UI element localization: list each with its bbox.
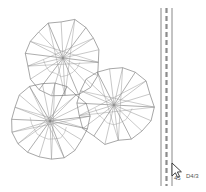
- canopy-top[interactable]: [25, 19, 99, 95]
- drawing-canvas[interactable]: 45D4/3: [0, 0, 206, 192]
- cad-drawing-surface[interactable]: 45D4/3: [0, 0, 206, 192]
- tooltip-left: 45: [174, 175, 181, 181]
- canopy-right[interactable]: [77, 68, 154, 145]
- vertical-path-guide[interactable]: [161, 8, 172, 186]
- tooltip-right: D4/3: [186, 173, 199, 179]
- annotation-labels: 45D4/3: [174, 173, 199, 181]
- tree-canopy-layer[interactable]: [12, 19, 155, 159]
